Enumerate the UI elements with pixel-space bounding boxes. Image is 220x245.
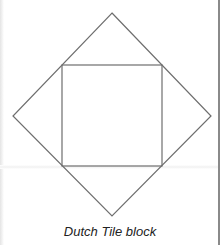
outer-diamond [13,13,211,216]
inner-square [62,65,162,166]
figure-caption: Dutch Tile block [0,224,220,239]
dutch-tile-diagram [0,0,220,245]
